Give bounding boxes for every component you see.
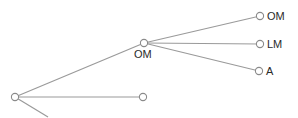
node-mid-om[interactable] [140, 39, 147, 46]
label-mid-om: OM [134, 48, 152, 60]
label-leaf-om: OM [267, 10, 285, 22]
label-leaf-a: A [266, 65, 274, 77]
node-leaf-a[interactable] [255, 67, 262, 74]
tree-diagram: OM OM LM A [0, 0, 298, 118]
edge-root-to-offscreen [15, 97, 48, 117]
node-leaf-lm[interactable] [256, 40, 263, 47]
label-leaf-lm: LM [267, 38, 282, 50]
edge-mid-to-lm [144, 43, 260, 44]
edge-mid-to-om [144, 16, 260, 43]
edge-root-to-mid [15, 43, 144, 97]
node-bottom[interactable] [139, 93, 146, 100]
edge-layer [15, 16, 260, 117]
edge-mid-to-a [144, 43, 259, 71]
node-leaf-om[interactable] [256, 12, 263, 19]
node-root[interactable] [11, 93, 18, 100]
